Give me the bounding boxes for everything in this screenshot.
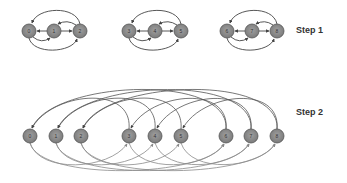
edge (56, 143, 249, 171)
node-label: 8 (276, 28, 279, 34)
edge (83, 89, 277, 129)
step2-node-1: 1 (49, 129, 63, 143)
step2-node-2: 2 (74, 129, 88, 143)
edge (33, 37, 50, 41)
step2-node-8: 8 (270, 129, 284, 143)
node-label: 7 (250, 133, 253, 139)
step2-node-7: 7 (244, 129, 258, 143)
edge (227, 38, 274, 50)
node-label: 6 (226, 28, 229, 34)
edge (183, 98, 277, 129)
edge (32, 10, 80, 24)
edge (159, 22, 177, 25)
node-label: 3 (128, 28, 131, 34)
step1-node-2: 2 (73, 24, 87, 38)
step1-node-5: 5 (174, 24, 188, 38)
node-label: 1 (55, 133, 58, 139)
step2-node-6: 6 (219, 129, 233, 143)
edge (231, 37, 248, 41)
node-label: 4 (154, 133, 157, 139)
node-label: 1 (53, 28, 56, 34)
step2-node-4: 4 (148, 129, 162, 143)
node-label: 0 (28, 28, 31, 34)
step1-node-3: 3 (122, 24, 136, 38)
step1-node-0: 0 (22, 24, 36, 38)
edge (29, 38, 77, 50)
node-label: 5 (180, 28, 183, 34)
node-label: 0 (29, 133, 32, 139)
nodes: 012345678012345678 (22, 24, 284, 143)
edge (157, 98, 251, 129)
edge (129, 38, 178, 50)
step1-node-7: 7 (245, 24, 259, 38)
step2-node-0: 0 (23, 129, 37, 143)
node-label: 6 (225, 133, 228, 139)
edge (132, 10, 181, 24)
edge (256, 22, 273, 25)
node-label: 4 (154, 28, 157, 34)
edge (58, 98, 155, 129)
edge (30, 143, 224, 171)
edge (58, 22, 76, 25)
node-label: 3 (128, 133, 131, 139)
step1-node-8: 8 (270, 24, 284, 38)
node-label: 2 (79, 28, 82, 34)
step1-node-1: 1 (47, 24, 61, 38)
node-label: 7 (251, 28, 254, 34)
step1-node-6: 6 (220, 24, 234, 38)
node-label: 5 (180, 133, 183, 139)
step2-label: Step 2 (296, 107, 323, 117)
step1-node-4: 4 (148, 24, 162, 38)
diagram-canvas: 012345678012345678 (0, 0, 347, 183)
step1-label: Step 1 (296, 25, 323, 35)
node-label: 8 (276, 133, 279, 139)
node-label: 2 (80, 133, 83, 139)
edge (133, 37, 151, 41)
edge (83, 98, 181, 129)
step2-node-5: 5 (174, 129, 188, 143)
step2-node-3: 3 (122, 129, 136, 143)
edge (230, 10, 277, 24)
